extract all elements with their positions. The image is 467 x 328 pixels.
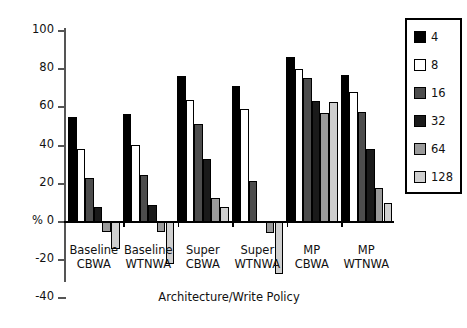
bar <box>203 159 212 222</box>
bar <box>140 175 149 222</box>
legend-item: 4 <box>414 30 438 44</box>
bar <box>148 205 157 222</box>
legend-swatch-icon <box>414 115 426 127</box>
legend-item: 8 <box>414 58 438 72</box>
bar <box>303 78 312 222</box>
legend-item: 128 <box>414 170 453 184</box>
bar <box>85 178 94 222</box>
legend-item-label: 4 <box>431 31 438 43</box>
legend-swatch-icon <box>414 87 426 99</box>
bar <box>312 101 321 222</box>
bar <box>157 222 166 232</box>
bar <box>194 124 203 222</box>
bar <box>358 112 367 222</box>
legend-item-label: 8 <box>431 59 438 71</box>
bar <box>94 207 103 222</box>
bar <box>102 222 111 232</box>
group-separator-tick <box>123 218 125 227</box>
bar <box>249 181 258 222</box>
bar-chart: -40-20% 020406080100 BaselineCBWABaselin… <box>0 0 467 328</box>
bar <box>366 149 375 222</box>
bar <box>240 109 249 222</box>
y-axis-tick-label: 60 <box>0 100 54 111</box>
plot-area <box>64 31 394 278</box>
legend-item-label: 32 <box>431 115 446 127</box>
legend: 48163264128 <box>405 18 462 194</box>
bar <box>186 100 195 222</box>
y-axis-tick-label: 80 <box>0 62 54 73</box>
x-axis-category-label-line: MP <box>332 244 402 258</box>
x-axis-title: Architecture/Write Policy <box>64 290 394 304</box>
y-axis-tick-label: % 0 <box>0 215 54 226</box>
legend-swatch-icon <box>414 171 426 183</box>
legend-item-label: 16 <box>431 87 446 99</box>
bar <box>384 203 393 222</box>
group-separator-tick <box>341 218 343 227</box>
y-axis-tick-label: 20 <box>0 177 54 188</box>
bar <box>123 114 132 222</box>
y-axis-tick-label: -20 <box>0 253 54 264</box>
bar <box>349 92 358 222</box>
y-axis-tick-label: -40 <box>0 291 54 302</box>
legend-item: 16 <box>414 86 446 100</box>
legend-item-label: 128 <box>431 171 453 183</box>
bar <box>220 207 229 222</box>
bar <box>211 198 220 222</box>
group-separator-tick <box>287 218 289 227</box>
bar <box>77 149 86 222</box>
group-separator-tick <box>178 218 180 227</box>
y-axis-tick-label: 100 <box>0 24 54 35</box>
y-axis-tick-label: 40 <box>0 139 54 150</box>
bar <box>375 188 384 222</box>
legend-swatch-icon <box>414 31 426 43</box>
bar <box>68 117 77 222</box>
bar <box>266 222 275 233</box>
bar <box>341 75 350 222</box>
legend-swatch-icon <box>414 143 426 155</box>
legend-item-label: 64 <box>431 143 446 155</box>
bar <box>329 102 338 222</box>
bar <box>232 86 241 222</box>
legend-item: 32 <box>414 114 446 128</box>
bar <box>320 113 329 222</box>
legend-item: 64 <box>414 142 446 156</box>
x-axis-category-label-line: WTNWA <box>332 258 402 272</box>
legend-swatch-icon <box>414 59 426 71</box>
group-separator-tick <box>232 218 234 227</box>
bar <box>286 57 295 222</box>
bar <box>295 69 304 222</box>
bar <box>131 145 140 222</box>
x-axis-category-label: MPWTNWA <box>332 244 402 271</box>
bar <box>177 76 186 222</box>
